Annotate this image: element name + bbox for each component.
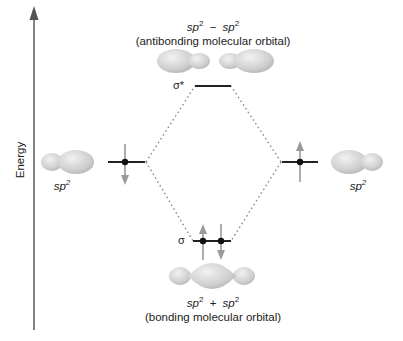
label-text: sp bbox=[54, 180, 66, 192]
exponent: 2 bbox=[199, 295, 203, 304]
exponent: 2 bbox=[362, 178, 366, 187]
arrowhead-icon bbox=[30, 6, 39, 20]
antibonding-description: (antibonding molecular orbital) bbox=[136, 35, 291, 48]
right-sp2-label: sp2 bbox=[350, 180, 367, 193]
mo-diagram bbox=[0, 0, 403, 341]
left-atomic-level bbox=[108, 144, 145, 185]
right-sp2-orbital-image bbox=[331, 150, 383, 174]
bonding-formula: sp2 + sp2 bbox=[187, 297, 239, 310]
exponent: 2 bbox=[199, 19, 203, 28]
formula-term: sp bbox=[187, 297, 199, 309]
antibonding-formula: sp2 − sp2 bbox=[187, 21, 239, 34]
energy-axis bbox=[30, 6, 39, 330]
spin-up-arrow-icon bbox=[199, 224, 207, 234]
left-sp2-label: sp2 bbox=[54, 180, 71, 193]
exponent: 2 bbox=[235, 295, 239, 304]
exponent: 2 bbox=[66, 178, 70, 187]
sigma-label: σ bbox=[178, 234, 185, 246]
energy-axis-label: Energy bbox=[14, 142, 26, 178]
bonding-orbital-image bbox=[169, 263, 255, 289]
operator: + bbox=[207, 297, 220, 309]
spin-up-arrow-icon bbox=[296, 141, 304, 151]
spin-down-arrow-icon bbox=[217, 250, 225, 260]
exponent: 2 bbox=[235, 19, 239, 28]
bonding-description: (bonding molecular orbital) bbox=[145, 311, 281, 324]
antibonding-orbital-image bbox=[157, 49, 274, 73]
spin-down-arrow-icon bbox=[121, 175, 129, 185]
right-atomic-level bbox=[282, 141, 318, 182]
formula-term: sp bbox=[223, 297, 235, 309]
correlation-lines bbox=[146, 86, 281, 241]
formula-term: sp bbox=[187, 21, 199, 33]
sigma-star-label: σ* bbox=[173, 79, 184, 91]
label-text: sp bbox=[350, 180, 362, 192]
formula-term: sp bbox=[223, 21, 235, 33]
left-sp2-orbital-image bbox=[41, 150, 94, 174]
operator: − bbox=[207, 21, 220, 33]
bonding-level bbox=[193, 224, 231, 260]
